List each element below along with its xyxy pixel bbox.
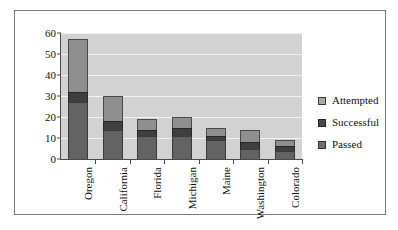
x-axis-label-colorado: Colorado <box>290 167 301 208</box>
legend-item-passed: Passed <box>318 139 379 150</box>
gridline <box>61 54 302 55</box>
bar-california <box>103 96 123 159</box>
chart-legend: AttemptedSuccessfulPassed <box>318 95 379 161</box>
y-axis-tick-label: 40 <box>45 70 56 81</box>
bar-segment-passed <box>103 130 123 159</box>
x-axis-label-california: California <box>118 167 129 212</box>
x-axis-label-maine: Maine <box>221 167 232 195</box>
x-axis-label-michigan: Michigan <box>187 167 198 209</box>
gridline <box>61 96 302 97</box>
legend-label: Passed <box>332 139 362 150</box>
x-axis-tick <box>199 159 200 164</box>
bar-segment-successful <box>68 92 88 103</box>
y-axis-tick <box>57 54 61 55</box>
bar-segment-passed <box>206 140 226 159</box>
bar-segment-successful <box>103 121 123 129</box>
bar-segment-passed <box>68 102 88 159</box>
chart-frame: 0102030405060 OregonCaliforniaFloridaMic… <box>14 10 386 215</box>
bar-segment-passed <box>137 136 157 159</box>
bar-segment-attempted <box>240 130 260 143</box>
bar-segment-passed <box>275 151 295 159</box>
plot-area: 0102030405060 OregonCaliforniaFloridaMic… <box>60 33 302 160</box>
y-axis-tick <box>57 33 61 34</box>
bar-segment-attempted <box>206 128 226 136</box>
x-axis-tick <box>95 159 96 164</box>
y-axis-tick <box>57 117 61 118</box>
bar-oregon <box>68 39 88 159</box>
bar-segment-passed <box>240 149 260 160</box>
x-axis-label-washington: Washington <box>255 167 266 219</box>
gridline <box>61 33 302 34</box>
bar-colorado <box>275 140 295 159</box>
gridline <box>61 75 302 76</box>
legend-item-attempted: Attempted <box>318 95 379 106</box>
chart-screenshot: 0102030405060 OregonCaliforniaFloridaMic… <box>0 0 398 230</box>
y-axis-tick <box>57 75 61 76</box>
bar-segment-attempted <box>68 39 88 92</box>
attempted-swatch <box>318 97 326 105</box>
y-axis-tick <box>57 96 61 97</box>
y-axis-tick-label: 50 <box>45 49 56 60</box>
bar-maine <box>206 128 226 159</box>
y-axis-tick <box>57 138 61 139</box>
x-axis-label-oregon: Oregon <box>83 167 94 200</box>
x-axis-tick <box>164 159 165 164</box>
y-axis-tick-label: 20 <box>45 112 56 123</box>
successful-swatch <box>318 119 326 127</box>
legend-label: Successful <box>332 117 379 128</box>
x-axis-tick <box>233 159 234 164</box>
bar-florida <box>137 119 157 159</box>
y-axis-tick-label: 30 <box>45 91 56 102</box>
passed-swatch <box>318 141 326 149</box>
legend-item-successful: Successful <box>318 117 379 128</box>
bar-segment-successful <box>172 128 192 136</box>
bar-segment-attempted <box>137 119 157 130</box>
x-axis-label-florida: Florida <box>152 167 163 199</box>
legend-label: Attempted <box>332 95 378 106</box>
y-axis-tick-label: 60 <box>45 28 56 39</box>
x-axis-tick <box>302 159 303 164</box>
y-axis-tick-label: 0 <box>51 154 57 165</box>
bar-segment-attempted <box>103 96 123 121</box>
bar-segment-attempted <box>172 117 192 128</box>
x-axis-tick <box>130 159 131 164</box>
bar-michigan <box>172 117 192 159</box>
y-axis-tick-label: 10 <box>45 133 56 144</box>
y-axis-tick <box>57 159 61 160</box>
bar-segment-passed <box>172 136 192 159</box>
bar-washington <box>240 130 260 159</box>
x-axis-tick <box>268 159 269 164</box>
